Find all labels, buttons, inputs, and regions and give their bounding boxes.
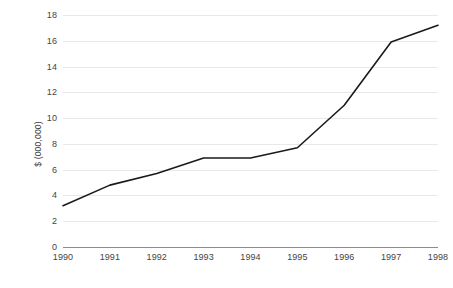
x-tick-label-1990: 1990 <box>38 252 88 262</box>
y-tick-label-12: 12 <box>31 87 57 97</box>
y-tick-label-6: 6 <box>31 165 57 175</box>
x-tick-label-1992: 1992 <box>132 252 182 262</box>
x-axis-tick-labels: 199019911992199319941995199619971998 <box>63 252 438 272</box>
y-tick-label-8: 8 <box>31 139 57 149</box>
x-tick-label-1993: 1993 <box>179 252 229 262</box>
y-tick-label-16: 16 <box>31 36 57 46</box>
y-axis-tick-labels: 024681012141618 <box>27 15 57 247</box>
y-tick-label-18: 18 <box>31 10 57 20</box>
plot-area <box>63 15 438 247</box>
x-tick-label-1995: 1995 <box>272 252 322 262</box>
series-layer <box>63 15 438 247</box>
x-tick-label-1994: 1994 <box>226 252 276 262</box>
x-tick-label-1991: 1991 <box>85 252 135 262</box>
y-tick-label-0: 0 <box>31 242 57 252</box>
x-tick-label-1996: 1996 <box>319 252 369 262</box>
series-line-0 <box>63 25 438 205</box>
x-tick-label-1997: 1997 <box>366 252 416 262</box>
y-tick-label-14: 14 <box>31 62 57 72</box>
x-tick-label-1998: 1998 <box>413 252 453 262</box>
y-tick-label-4: 4 <box>31 190 57 200</box>
y-tick-label-10: 10 <box>31 113 57 123</box>
y-tick-label-2: 2 <box>31 216 57 226</box>
x-axis-baseline <box>63 247 438 248</box>
